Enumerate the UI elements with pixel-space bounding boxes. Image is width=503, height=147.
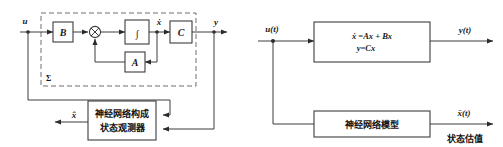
wire-ut-to-nn (273, 41, 314, 124)
wire-A-to-sum (95, 39, 125, 62)
left-diagram-group: u B ∫ A C ẋ y Σ x̂ 神经网络构成 状态观测器 (20, 13, 227, 140)
label-nn-model: 神经网络模型 (345, 119, 399, 130)
label-block-A: A (131, 57, 139, 68)
label-plant-equation1: ẋ =Ax + Bx (351, 31, 393, 41)
block-plant (314, 22, 430, 62)
block-diagram-svg: u B ∫ A C ẋ y Σ x̂ 神经网络构成 状态观测器 (0, 0, 503, 147)
wire-internal-to-observer (163, 100, 170, 115)
label-ut: u(t) (265, 24, 279, 34)
label-block-C: C (178, 27, 185, 38)
label-xhat: x̂ (71, 110, 77, 120)
label-sigma: Σ (46, 74, 51, 83)
right-diagram-group: u(t) ẋ =Ax + Bx y=Cx y(t) 神经网络模型 x̄(t) 状… (258, 22, 493, 144)
label-plant-equation2: y=Cx (356, 43, 376, 53)
wire-y-to-observer (163, 32, 214, 129)
label-block-B: B (59, 27, 67, 38)
label-u: u (22, 16, 27, 26)
figure-canvas: u B ∫ A C ẋ y Σ x̂ 神经网络构成 状态观测器 (0, 0, 503, 147)
label-estimate-caption: 状态估值 (447, 133, 483, 144)
label-yt: y(t) (458, 25, 472, 35)
label-y: y (213, 17, 219, 27)
label-observer-line2: 状态观测器 (100, 122, 146, 133)
label-xdot: ẋ (156, 17, 162, 27)
block-observer (88, 101, 156, 140)
label-observer-line1: 神经网络构成 (95, 108, 149, 119)
label-xbar-t: x̄(t) (457, 108, 471, 118)
